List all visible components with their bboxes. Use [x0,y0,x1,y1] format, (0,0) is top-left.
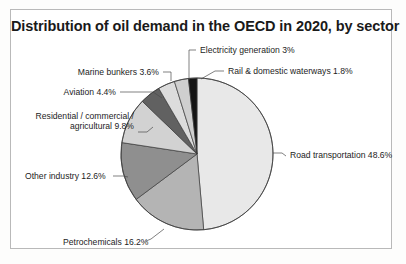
slice-label-line: agricultural 9.8% [70,121,134,131]
pie-slice[interactable] [197,78,273,230]
chart-panel: Distribution of oil demand in the OECD i… [10,9,392,249]
leader-line [189,50,196,80]
slice-label: Aviation 4.4% [64,87,117,97]
leader-line [146,229,164,241]
figure-container: Distribution of oil demand in the OECD i… [0,0,406,264]
slice-label: Residential / commercial /agricultural 9… [36,111,135,131]
slice-label: Marine bunkers 3.6% [78,67,160,77]
slice-label: Petrochemicals 16.2% [63,237,149,247]
leader-line [163,72,171,81]
leader-line [201,71,224,79]
pie-chart: Road transportation 48.6%Petrochemicals … [11,10,393,250]
slice-label: Road transportation 48.6% [290,150,393,160]
pie-slices-group [121,78,273,230]
slice-label-line: Residential / commercial / [36,111,135,121]
leader-line [273,153,286,156]
slice-label: Other industry 12.6% [25,171,106,181]
slice-label: Electricity generation 3% [200,45,295,55]
slice-label: Rail & domestic waterways 1.8% [228,66,353,76]
